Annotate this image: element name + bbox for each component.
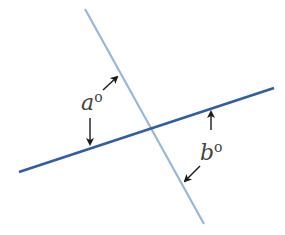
angle-a-label: ao — [81, 89, 103, 115]
shallow-line — [19, 88, 274, 172]
angle-a-arrow-up — [103, 77, 117, 90]
angle-b-label: bo — [200, 139, 223, 165]
angle-b-arrow-down — [185, 166, 200, 181]
intersecting-lines-diagram: ao bo — [0, 0, 285, 235]
